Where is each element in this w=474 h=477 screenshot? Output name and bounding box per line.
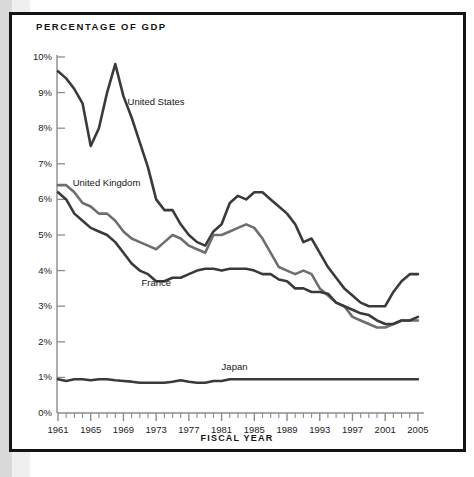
series-label-japan: Japan: [222, 361, 248, 372]
chart-screenshot: PERCENTAGE OF GDP 0%1%2%3%4%5%6%7%8%9%10…: [0, 0, 474, 477]
y-axis-tick-label: 5%: [22, 229, 52, 240]
y-axis-tick-label: 3%: [22, 300, 52, 311]
x-axis-title: FISCAL YEAR: [0, 433, 474, 443]
y-axis-tick-label: 9%: [22, 87, 52, 98]
series-label-france: France: [141, 277, 171, 288]
series-line-japan: [58, 379, 418, 383]
series-line-united-kingdom: [58, 185, 418, 327]
series-group: [58, 64, 418, 383]
y-axis-tick-label: 6%: [22, 193, 52, 204]
y-axis-tick-label: 4%: [22, 265, 52, 276]
y-axis-tick-label: 8%: [22, 122, 52, 133]
y-axis-tick-label: 10%: [22, 51, 52, 62]
y-axis-tick-label: 0%: [22, 407, 52, 418]
series-label-united-states: United States: [128, 96, 185, 107]
y-axis-tick-label: 1%: [22, 371, 52, 382]
line-chart-plot: [0, 0, 474, 477]
y-axis-tick-label: 7%: [22, 158, 52, 169]
y-axis-tick-label: 2%: [22, 336, 52, 347]
series-label-united-kingdom: United Kingdom: [73, 177, 141, 188]
